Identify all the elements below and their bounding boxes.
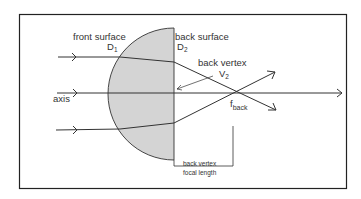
bvfl-label-line2: focal length	[183, 169, 217, 177]
front-surface-symbol: D1	[107, 41, 118, 53]
front-surface-label: front surface	[73, 31, 126, 42]
axis-label: axis	[53, 93, 70, 104]
back-surface-symbol: D2	[177, 41, 188, 53]
back-vertex-symbol: V2	[219, 68, 229, 80]
vertex-pointer	[177, 76, 213, 89]
lens-diagram: front surface D1 back surface D2 back ve…	[0, 0, 361, 199]
back-vertex-label: back vertex	[198, 57, 247, 68]
lens-shape	[108, 28, 174, 160]
focal-point-symbol: fback	[230, 98, 248, 111]
bvfl-label-line1: back vertex	[183, 160, 217, 167]
